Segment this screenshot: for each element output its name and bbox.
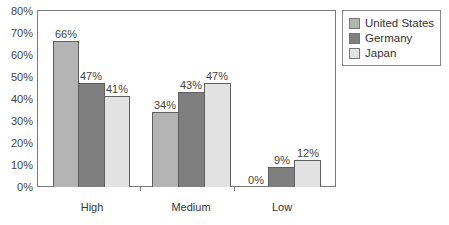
y-tick-label: 20% xyxy=(11,137,33,149)
legend-item-germany: Germany xyxy=(349,31,412,45)
bar-medium-united-states xyxy=(152,112,179,187)
bar-high-japan xyxy=(104,96,130,187)
x-category-label: Low xyxy=(242,201,322,213)
y-tick-label: 10% xyxy=(11,159,33,171)
x-category-label: High xyxy=(52,201,132,213)
legend-swatch-icon xyxy=(349,33,360,44)
legend-item-united-states: United States xyxy=(349,16,434,30)
data-label: 34% xyxy=(145,99,185,111)
bar-medium-japan xyxy=(204,83,231,187)
data-label: 12% xyxy=(288,147,328,159)
y-tick-label: 50% xyxy=(11,71,33,83)
legend-swatch-icon xyxy=(349,18,360,29)
legend-label: United States xyxy=(365,16,434,30)
data-label: 41% xyxy=(97,83,137,95)
y-tick-label: 60% xyxy=(11,49,33,61)
x-tick-mark xyxy=(140,187,141,191)
legend-label: Germany xyxy=(365,31,412,45)
legend-label: Japan xyxy=(365,46,396,60)
y-tick-label: 0% xyxy=(17,181,33,193)
x-tick-mark xyxy=(234,187,235,191)
x-category-label: Medium xyxy=(151,201,231,213)
legend-swatch-icon xyxy=(349,48,360,59)
data-label: 0% xyxy=(236,174,276,186)
bar-high-united-states xyxy=(53,41,79,187)
data-label: 66% xyxy=(46,28,86,40)
legend: United States Germany Japan xyxy=(342,10,441,66)
bar-high-germany xyxy=(78,83,105,187)
data-label: 47% xyxy=(197,70,237,82)
data-label: 47% xyxy=(71,70,111,82)
legend-item-japan: Japan xyxy=(349,46,396,60)
y-tick-label: 40% xyxy=(11,93,33,105)
y-tick-label: 70% xyxy=(11,27,33,39)
y-tick-label: 80% xyxy=(11,5,33,17)
y-tick-label: 30% xyxy=(11,115,33,127)
